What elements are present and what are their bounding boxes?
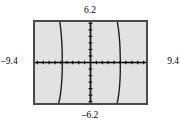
x-min-label: –9.4 xyxy=(1,57,18,67)
x-max-label: 9.4 xyxy=(167,57,179,67)
y-max-label: 6.2 xyxy=(0,6,180,16)
plot-canvas xyxy=(35,22,146,103)
plot-screen xyxy=(33,20,148,105)
graphing-calculator-figure: 6.2 –9.4 9.4 –6.2 xyxy=(0,0,180,123)
y-min-label: –6.2 xyxy=(0,111,180,121)
